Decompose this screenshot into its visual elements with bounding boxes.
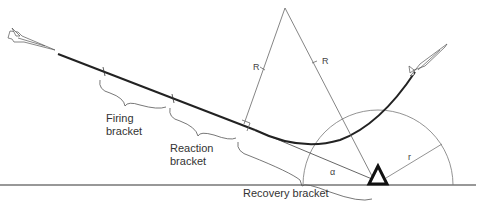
escaping-aircraft-icon (409, 44, 447, 76)
recovery-curve (255, 72, 415, 144)
radius-label-right: R (322, 56, 329, 66)
radius-label-left: R (253, 62, 260, 72)
firing-bracket (100, 80, 166, 108)
attacking-aircraft-icon (8, 28, 55, 50)
reaction-bracket-label-1: Reaction (170, 142, 213, 154)
recovery-bracket-label: Recovery bracket (243, 187, 329, 199)
radius-line-right (285, 8, 373, 178)
firing-bracket-label-2: bracket (106, 125, 142, 137)
reaction-bracket (170, 108, 236, 139)
small-radius-line (386, 144, 442, 178)
angle-label: α (330, 167, 335, 177)
reaction-bracket-label-2: bracket (170, 155, 206, 167)
attack-geometry-diagram: r R R α Firing bracket Reaction bracket … (0, 0, 484, 210)
attack-path (58, 54, 255, 130)
small-radius-label: r (408, 152, 411, 162)
range-semicircle (303, 110, 453, 185)
radius-line-left (244, 8, 285, 124)
firing-bracket-label-1: Firing (106, 112, 134, 124)
